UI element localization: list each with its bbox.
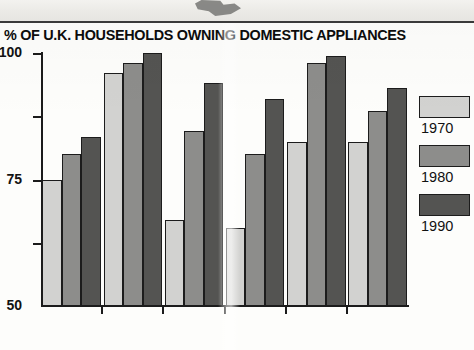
scan-smudge-mark [195, 0, 241, 16]
y-axis-tick-label: 75 [6, 171, 22, 187]
y-axis-tick: 100 [33, 53, 41, 55]
x-axis-tick [224, 306, 226, 314]
bar-1980-fridge [307, 63, 327, 306]
legend-label-1980: 1980 [419, 167, 474, 186]
x-axis-tick [162, 306, 164, 314]
y-axis-tick: 75 [33, 116, 41, 118]
bar-1980-car [62, 154, 82, 306]
y-axis-tick-label: 50 [6, 297, 22, 313]
bar-1970-fridge [287, 142, 307, 306]
scan-top-strip [0, 0, 474, 21]
x-axis-tick [101, 306, 103, 314]
header-divider [0, 21, 474, 23]
bar-1990-central-heating [265, 99, 285, 306]
bar-1970-central-heating [226, 228, 246, 306]
chart-legend: 197019801990 [419, 96, 474, 243]
bar-1990-fridge [326, 56, 346, 306]
bar-1970-T.V. [104, 73, 124, 306]
bar-1970-car [42, 180, 62, 307]
legend-item-1980: 1980 [419, 145, 474, 186]
y-axis-tick: 25 [33, 243, 41, 245]
x-axis-tick [346, 306, 348, 314]
bar-1990-washing-machine [387, 88, 407, 306]
x-axis-tick [285, 306, 287, 314]
bar-1980-phone [184, 131, 204, 306]
bar-1970-phone [165, 220, 185, 306]
legend-item-1970: 1970 [419, 96, 474, 137]
y-axis-tick: 50 [33, 180, 41, 182]
legend-swatch-1990 [419, 194, 470, 216]
bar-1990-T.V. [143, 53, 163, 306]
legend-label-1990: 1990 [419, 216, 474, 235]
legend-swatch-1980 [419, 145, 470, 167]
legend-item-1990: 1990 [419, 194, 474, 235]
legend-swatch-1970 [419, 96, 470, 118]
chart-title: % OF U.K. HOUSEHOLDS OWNING DOMESTIC APP… [4, 26, 472, 44]
chart-screenshot: % OF U.K. HOUSEHOLDS OWNING DOMESTIC APP… [0, 0, 474, 350]
bar-1970-washing-machine [348, 142, 368, 306]
legend-label-1970: 1970 [419, 118, 474, 137]
bar-1980-T.V. [123, 63, 143, 306]
plot-area: 100755025carT.V.phonecentral heatingfrid… [41, 53, 408, 306]
bar-1980-central-heating [245, 154, 265, 306]
bar-1990-phone [204, 83, 224, 306]
bar-1980-washing-machine [368, 111, 388, 306]
y-axis-tick-label: 100 [0, 44, 22, 60]
bar-1990-car [81, 137, 101, 307]
